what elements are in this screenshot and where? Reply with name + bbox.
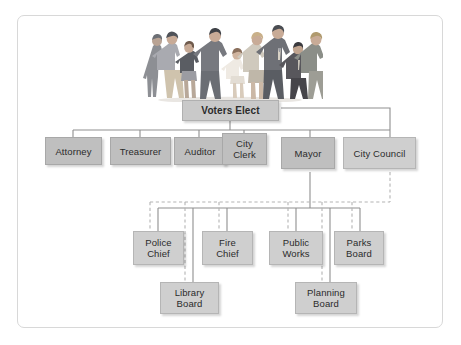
node-label: Treasurer	[118, 146, 164, 157]
org-chart-canvas: Voters Elect Attorney Treasurer Auditor …	[0, 0, 461, 345]
node-label: Planning Board	[305, 287, 347, 309]
node-label: Mayor	[293, 148, 324, 159]
connector-lines	[0, 0, 461, 345]
node-city-council[interactable]: City Council	[343, 137, 416, 169]
node-label: Library Board	[173, 287, 207, 309]
node-police-chief[interactable]: Police Chief	[133, 231, 184, 265]
node-attorney[interactable]: Attorney	[45, 137, 102, 165]
node-label: Auditor	[183, 146, 218, 157]
node-label: Attorney	[53, 146, 93, 157]
node-label: Voters Elect	[199, 105, 261, 116]
node-public-works[interactable]: Public Works	[269, 231, 323, 265]
node-city-clerk[interactable]: City Clerk	[222, 133, 267, 165]
node-auditor[interactable]: Auditor	[174, 137, 226, 165]
node-library-board[interactable]: Library Board	[160, 282, 219, 314]
node-planning-board[interactable]: Planning Board	[295, 282, 357, 314]
node-label: Fire Chief	[214, 237, 241, 259]
node-treasurer[interactable]: Treasurer	[110, 137, 171, 165]
node-label: Police Chief	[143, 237, 173, 259]
node-fire-chief[interactable]: Fire Chief	[202, 231, 253, 265]
node-voters-elect[interactable]: Voters Elect	[182, 100, 279, 121]
node-label: Public Works	[280, 237, 311, 259]
node-label: Parks Board	[344, 237, 374, 259]
node-parks-board[interactable]: Parks Board	[334, 231, 384, 265]
node-label: City Clerk	[231, 138, 258, 160]
node-mayor[interactable]: Mayor	[281, 137, 335, 169]
node-label: City Council	[352, 148, 408, 159]
